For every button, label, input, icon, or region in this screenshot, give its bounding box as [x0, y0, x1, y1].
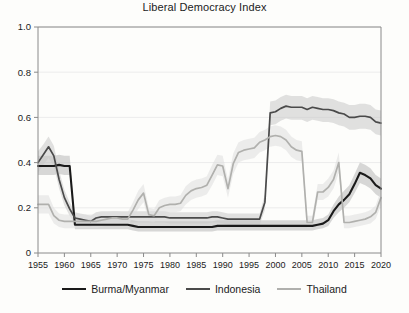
svg-text:2005: 2005 — [292, 260, 312, 270]
legend-label-thailand: Thailand — [306, 283, 346, 295]
svg-text:2000: 2000 — [265, 260, 285, 270]
series-lines — [38, 106, 381, 227]
svg-text:1955: 1955 — [28, 260, 48, 270]
confidence-bands — [38, 95, 381, 232]
svg-text:1.0: 1.0 — [18, 21, 31, 32]
line-chart-plot: 00.20.40.60.81.0 19551960196519701975198… — [0, 0, 409, 313]
svg-text:0: 0 — [26, 247, 31, 258]
svg-text:1965: 1965 — [81, 260, 101, 270]
svg-text:2010: 2010 — [318, 260, 338, 270]
y-axis-ticks: 00.20.40.60.81.0 — [18, 21, 38, 258]
svg-text:0.6: 0.6 — [18, 112, 31, 123]
x-axis-ticks: 1955196019651970197519801985199019952000… — [28, 253, 391, 270]
legend-swatch-burma — [62, 288, 86, 290]
svg-text:1985: 1985 — [186, 260, 206, 270]
svg-text:1960: 1960 — [54, 260, 74, 270]
legend-swatch-thailand — [277, 288, 301, 290]
svg-text:1970: 1970 — [107, 260, 127, 270]
legend-swatch-indonesia — [186, 288, 210, 290]
svg-text:0.2: 0.2 — [18, 202, 31, 213]
svg-text:1980: 1980 — [160, 260, 180, 270]
svg-text:1995: 1995 — [239, 260, 259, 270]
legend-label-indonesia: Indonesia — [215, 283, 261, 295]
legend-item-thailand: Thailand — [277, 283, 346, 295]
svg-text:0.4: 0.4 — [18, 157, 31, 168]
svg-text:2015: 2015 — [345, 260, 365, 270]
legend-item-indonesia: Indonesia — [186, 283, 261, 295]
svg-text:1990: 1990 — [213, 260, 233, 270]
legend-item-burma: Burma/Myanmar — [62, 283, 169, 295]
svg-text:0.8: 0.8 — [18, 67, 31, 78]
legend-label-burma: Burma/Myanmar — [91, 283, 169, 295]
chart-container: Liberal Democracy Index 00.20.40.60.81.0… — [0, 0, 409, 313]
svg-text:1975: 1975 — [134, 260, 154, 270]
svg-text:2020: 2020 — [371, 260, 391, 270]
chart-legend: Burma/Myanmar Indonesia Thailand — [0, 283, 409, 295]
